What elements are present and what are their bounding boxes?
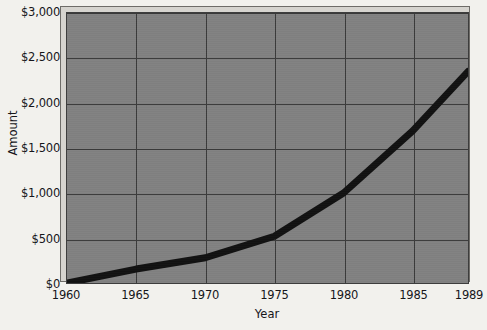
y-tick-label: $1,500	[2, 141, 60, 155]
y-tick-label: $500	[2, 232, 60, 246]
plot-face	[66, 12, 469, 284]
x-tick-label: 1989	[455, 288, 483, 302]
x-axis-tick-labels: 1960196519701975198019851989	[60, 288, 480, 306]
x-tick-label: 1975	[260, 288, 288, 302]
line-chart: Amount $0$500$1,000$1,500$2,000$2,500$3,…	[0, 0, 487, 330]
x-tick-label: 1960	[52, 288, 80, 302]
x-tick-label: 1970	[191, 288, 219, 302]
x-tick-label: 1985	[399, 288, 427, 302]
y-tick-label: $2,000	[2, 96, 60, 110]
data-line-amount	[67, 71, 468, 283]
y-tick-label: $1,000	[2, 186, 60, 200]
y-tick-label: $2,500	[2, 50, 60, 64]
data-series-layer	[67, 13, 468, 283]
x-tick-label: 1965	[121, 288, 149, 302]
plot-area	[60, 6, 474, 284]
x-axis-title: Year	[60, 307, 474, 321]
y-tick-label: $3,000	[2, 5, 60, 19]
y-axis-tick-labels: $0$500$1,000$1,500$2,000$2,500$3,000	[0, 6, 60, 284]
x-tick-label: 1980	[330, 288, 358, 302]
